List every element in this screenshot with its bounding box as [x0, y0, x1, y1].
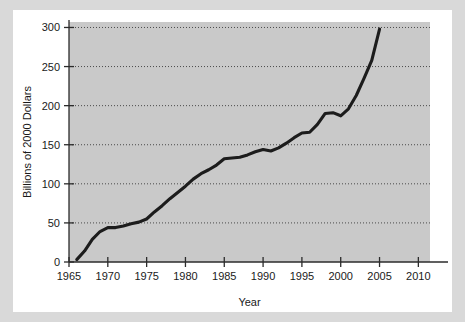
x-tick-label-2005: 2005: [367, 270, 391, 282]
x-tick-label-2010: 2010: [406, 270, 430, 282]
x-tick-label-1965: 1965: [57, 270, 81, 282]
y-tick-label-200: 200: [42, 100, 60, 112]
chart-canvas: 050100150200250300 196519701975198019851…: [13, 10, 452, 312]
line-chart: 050100150200250300 196519701975198019851…: [13, 10, 452, 312]
y-tick-label-50: 50: [48, 217, 60, 229]
y-tick-label-250: 250: [42, 61, 60, 73]
x-axis-title: Year: [238, 296, 261, 308]
x-tick-label-1980: 1980: [173, 270, 197, 282]
y-tick-label-0: 0: [54, 256, 60, 268]
x-tick-label-1990: 1990: [251, 270, 275, 282]
y-axis-title: Billions of 2000 Dollars: [21, 86, 33, 198]
x-tick-label-1985: 1985: [212, 270, 236, 282]
figure-outer-frame: 050100150200250300 196519701975198019851…: [0, 0, 465, 322]
x-tick-label-1995: 1995: [290, 270, 314, 282]
x-tick-label-1975: 1975: [134, 270, 158, 282]
figure-card: 050100150200250300 196519701975198019851…: [13, 10, 452, 312]
x-tick-label-1970: 1970: [96, 270, 120, 282]
y-tick-label-100: 100: [42, 178, 60, 190]
y-tick-label-150: 150: [42, 139, 60, 151]
x-tick-label-2000: 2000: [328, 270, 352, 282]
y-tick-label-300: 300: [42, 21, 60, 33]
